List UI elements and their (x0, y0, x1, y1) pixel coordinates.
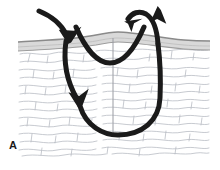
skin-cross-section-diagram (0, 0, 220, 170)
dermis-fill (18, 38, 210, 158)
dermis-layer (18, 38, 210, 158)
figure-panel: A (0, 0, 220, 170)
panel-label: A (9, 140, 17, 151)
